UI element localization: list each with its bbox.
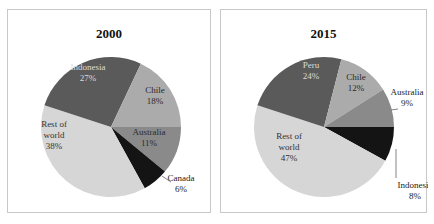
slice-label-indonesia: Indonesia8%	[398, 180, 429, 201]
chart-panel-2000: 2000 Australia11%Canada6%Rest ofworld38%…	[7, 9, 211, 213]
pie-chart-2000: Australia11%Canada6%Rest ofworld38%Indon…	[8, 10, 212, 214]
chart-panel-2015: 2015 Indonesia8%Rest ofworld47%Peru24%Ch…	[220, 9, 427, 213]
slice-label-canada: Canada6%	[168, 173, 195, 194]
leader-line	[391, 109, 398, 110]
slice-label-peru: Peru24%	[303, 60, 320, 81]
slice-label-australia: Australia9%	[391, 87, 424, 108]
pie-chart-2015: Indonesia8%Rest ofworld47%Peru24%Chile12…	[221, 10, 428, 214]
slice-label-chile: Chile12%	[346, 72, 366, 93]
slice-label-chile: Chile18%	[145, 85, 165, 106]
